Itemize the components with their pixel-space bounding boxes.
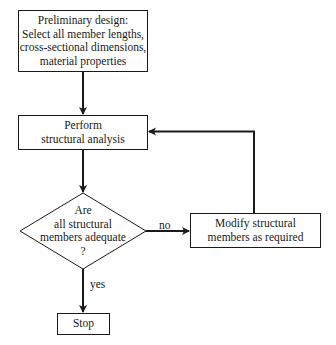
stop-text: Stop <box>57 313 110 335</box>
structural-analysis-text: Perform structural analysis <box>18 115 148 150</box>
arrow-feedback-to-analysis <box>149 132 254 214</box>
preliminary-line-2: Select all member lengths, <box>22 28 144 42</box>
preliminary-line-3: cross-sectional dimensions, <box>20 41 146 55</box>
decision-text: Are all structural members adequate ? <box>28 203 138 259</box>
stop-label: Stop <box>73 317 94 331</box>
yes-label: yes <box>90 278 105 291</box>
analysis-line-2: structural analysis <box>41 133 124 147</box>
preliminary-line-1: Preliminary design: <box>38 14 128 28</box>
modify-members-text: Modify structural members as required <box>190 213 321 248</box>
modify-line-2: members as required <box>208 231 304 245</box>
modify-line-1: Modify structural <box>215 217 296 231</box>
decision-line-2: all structural <box>54 218 112 232</box>
no-label: no <box>159 219 171 232</box>
decision-line-4: ? <box>80 245 85 259</box>
decision-line-3: members adequate <box>40 231 126 245</box>
preliminary-line-4: material properties <box>40 55 127 69</box>
preliminary-design-text: Preliminary design: Select all member le… <box>18 10 148 72</box>
decision-line-1: Are <box>74 204 91 218</box>
analysis-line-1: Perform <box>64 119 102 133</box>
